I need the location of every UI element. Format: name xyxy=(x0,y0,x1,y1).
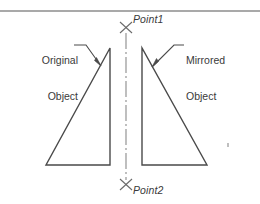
mirrored-object-label-line1: Mirrored xyxy=(186,54,256,66)
mirrored-leader-arrowhead xyxy=(152,59,159,68)
original-leader-arrowhead xyxy=(95,58,102,67)
point2-label: Point2 xyxy=(133,184,163,196)
original-object-label-line2: Object xyxy=(10,90,78,102)
point2-marker[interactable] xyxy=(120,179,132,190)
original-object-leader xyxy=(74,45,101,66)
drawing-canvas: Original Object Mirrored Object Point1 P… xyxy=(0,0,260,204)
mirrored-object-leader xyxy=(152,45,184,67)
mirrored-object-label: Mirrored Object xyxy=(186,30,256,126)
original-object-label-line1: Original xyxy=(10,54,78,66)
original-object-label: Original Object xyxy=(10,30,78,126)
point1-marker[interactable] xyxy=(120,22,132,33)
mirrored-object-label-line2: Object xyxy=(186,90,256,102)
point1-label: Point1 xyxy=(133,13,163,25)
